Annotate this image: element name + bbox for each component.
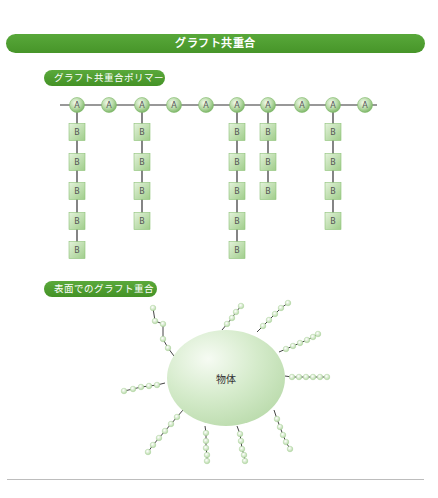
monomer-b: B: [69, 183, 85, 200]
monomer-b: B: [229, 242, 245, 259]
svg-text:A: A: [74, 101, 80, 110]
svg-text:B: B: [139, 158, 145, 167]
monomer-b: B: [134, 124, 150, 141]
svg-text:B: B: [330, 158, 336, 167]
monomer-b: B: [260, 154, 276, 171]
svg-text:B: B: [74, 128, 80, 137]
svg-text:B: B: [74, 217, 80, 226]
grafted-chain: [257, 300, 291, 332]
monomer-b: B: [260, 183, 276, 200]
monomer-b: B: [229, 213, 245, 230]
svg-text:A: A: [234, 101, 240, 110]
monomer-a: A: [167, 98, 182, 113]
monomer-b: B: [69, 242, 85, 259]
monomer-b: B: [229, 124, 245, 141]
monomer-b: B: [229, 183, 245, 200]
divider: [7, 479, 424, 480]
svg-text:B: B: [234, 128, 240, 137]
monomer-a: A: [102, 98, 117, 113]
monomer-a: A: [326, 98, 341, 113]
svg-text:B: B: [74, 246, 80, 255]
monomer-b: B: [325, 154, 341, 171]
monomer-a: A: [358, 98, 373, 113]
svg-text:B: B: [265, 187, 271, 196]
grafted-chain: [274, 410, 293, 452]
svg-text:B: B: [74, 187, 80, 196]
svg-text:A: A: [171, 101, 177, 110]
svg-text:B: B: [234, 246, 240, 255]
svg-text:B: B: [330, 217, 336, 226]
graft-copolymer-diagram: BBBBBBBBBBBBBBBBBBBBBAAAAAAAAAA: [60, 98, 377, 259]
svg-text:B: B: [74, 158, 80, 167]
grafted-chain: [285, 374, 330, 380]
monomer-b: B: [260, 124, 276, 141]
svg-text:B: B: [265, 128, 271, 137]
graft-diagram: BBBBBBBBBBBBBBBBBBBBBAAAAAAAAAA: [0, 0, 438, 498]
monomer-b: B: [325, 183, 341, 200]
grafted-chain: [150, 305, 174, 356]
monomer-b: B: [134, 183, 150, 200]
svg-text:A: A: [299, 101, 305, 110]
monomer-b: B: [134, 213, 150, 230]
svg-text:B: B: [330, 128, 336, 137]
svg-text:A: A: [139, 101, 145, 110]
object-label: 物体: [216, 371, 236, 386]
svg-text:A: A: [265, 101, 271, 110]
monomer-a: A: [135, 98, 150, 113]
monomer-b: B: [69, 124, 85, 141]
svg-text:A: A: [330, 101, 336, 110]
monomer-a: A: [70, 98, 85, 113]
svg-text:A: A: [106, 101, 112, 110]
monomer-a: A: [230, 98, 245, 113]
monomer-b: B: [325, 213, 341, 230]
monomer-b: B: [325, 124, 341, 141]
grafted-chain: [237, 426, 248, 464]
svg-text:B: B: [139, 187, 145, 196]
grafted-chain: [121, 382, 165, 394]
grafted-chain: [145, 410, 183, 455]
svg-text:A: A: [362, 101, 368, 110]
grafted-chain: [279, 331, 321, 352]
grafted-chain: [203, 426, 210, 464]
monomer-b: B: [229, 154, 245, 171]
monomer-b: B: [134, 154, 150, 171]
svg-text:B: B: [234, 187, 240, 196]
monomer-b: B: [69, 154, 85, 171]
monomer-b: B: [69, 213, 85, 230]
svg-text:B: B: [139, 128, 145, 137]
section-label-surface-graft: 表面でのグラフト重合: [44, 281, 157, 297]
svg-text:B: B: [265, 158, 271, 167]
grafted-chain: [222, 303, 244, 330]
svg-text:B: B: [139, 217, 145, 226]
svg-text:A: A: [203, 101, 209, 110]
svg-text:B: B: [234, 217, 240, 226]
monomer-a: A: [199, 98, 214, 113]
svg-text:B: B: [234, 158, 240, 167]
monomer-a: A: [261, 98, 276, 113]
monomer-a: A: [295, 98, 310, 113]
svg-text:B: B: [330, 187, 336, 196]
